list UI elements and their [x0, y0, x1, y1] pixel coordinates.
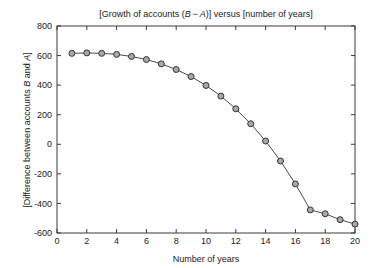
x-tick-label: 4 — [114, 236, 119, 246]
data-series-line — [72, 53, 355, 224]
y-tick-label: -200 — [34, 169, 52, 179]
svg-text:[Difference between accounts B: [Difference between accounts B and A] — [22, 52, 32, 208]
data-point — [337, 217, 343, 223]
x-tick-label: 6 — [144, 236, 149, 246]
y-tick-label: -600 — [34, 228, 52, 238]
data-point — [188, 74, 194, 80]
plot-frame — [57, 26, 355, 233]
x-tick-label: 18 — [320, 236, 330, 246]
x-tick-label: 14 — [261, 236, 271, 246]
data-series-markers — [69, 50, 358, 227]
data-point — [218, 93, 224, 99]
x-axis-tick-labels: 02468101214161820 — [54, 236, 360, 246]
data-point — [129, 53, 135, 59]
data-point — [278, 158, 284, 164]
x-tick-label: 12 — [231, 236, 241, 246]
y-tick-label: 600 — [37, 51, 52, 61]
chart-canvas: [Growth of accounts (B − A)] versus [num… — [0, 0, 371, 268]
x-tick-label: 20 — [350, 236, 360, 246]
data-point — [263, 138, 269, 144]
data-point — [233, 106, 239, 112]
y-tick-label: -400 — [34, 199, 52, 209]
data-point — [292, 181, 298, 187]
x-axis-title: Number of years — [173, 254, 240, 264]
x-tick-label: 8 — [174, 236, 179, 246]
x-axis-ticks — [57, 26, 355, 233]
data-point — [352, 221, 358, 227]
x-tick-label: 16 — [290, 236, 300, 246]
data-point — [173, 66, 179, 72]
chart-title: [Growth of accounts (B − A)] versus [num… — [99, 9, 312, 19]
y-axis-tick-labels: -600-400-2000200400600800 — [34, 21, 52, 238]
y-tick-label: 200 — [37, 110, 52, 120]
data-point — [84, 50, 90, 56]
figure-container: [Growth of accounts (B − A)] versus [num… — [0, 0, 371, 268]
data-point — [99, 50, 105, 56]
data-point — [248, 121, 254, 127]
y-axis-title: [Difference between accounts B and A] — [22, 52, 32, 208]
x-tick-label: 10 — [201, 236, 211, 246]
y-tick-label: 0 — [47, 139, 52, 149]
data-point — [143, 57, 149, 63]
y-tick-label: 400 — [37, 80, 52, 90]
y-axis-ticks — [57, 26, 355, 233]
y-tick-label: 800 — [37, 21, 52, 31]
data-point — [158, 61, 164, 67]
data-point — [69, 50, 75, 56]
x-tick-label: 2 — [84, 236, 89, 246]
data-point — [322, 211, 328, 217]
data-point — [114, 51, 120, 57]
x-tick-label: 0 — [54, 236, 59, 246]
data-point — [307, 207, 313, 213]
data-point — [203, 82, 209, 88]
